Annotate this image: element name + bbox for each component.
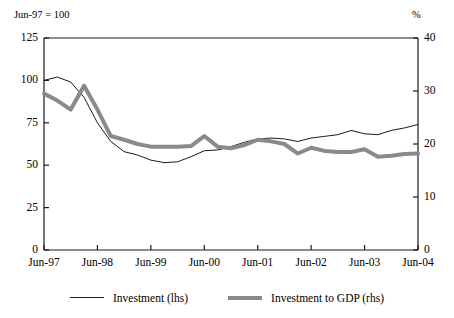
right-axis-tick-label: 0	[424, 244, 454, 256]
thin-line-swatch	[70, 295, 104, 301]
right-axis-tick-label: 20	[424, 138, 454, 150]
right-axis-unit-label: %	[412, 10, 421, 21]
left-axis-tick-label: 125	[4, 32, 38, 44]
axis-frame	[44, 38, 418, 250]
right-axis-tick-label: 40	[424, 32, 454, 44]
x-axis-ticks	[44, 245, 418, 250]
x-axis-tick-label: Jun-04	[388, 257, 448, 269]
left-axis-ticks	[44, 38, 49, 250]
legend-item: Investment (lhs)	[70, 292, 188, 304]
right-axis-tick-label: 30	[424, 85, 454, 97]
x-axis-tick-label: Jun-97	[14, 257, 74, 269]
x-axis-tick-label: Jun-03	[335, 257, 395, 269]
right-axis-tick-label: 10	[424, 191, 454, 203]
left-axis-tick-label: 50	[4, 159, 38, 171]
left-axis-tick-label: 0	[4, 244, 38, 256]
x-axis-tick-label: Jun-02	[281, 257, 341, 269]
chart-container: Jun-97 = 100 % 0255075100125 010203040 J…	[0, 0, 454, 318]
x-axis-tick-label: Jun-99	[121, 257, 181, 269]
right-axis-ticks	[413, 38, 418, 250]
x-axis-tick-label: Jun-00	[174, 257, 234, 269]
left-axis-tick-label: 75	[4, 117, 38, 129]
legend-item-label: Investment to GDP (rhs)	[271, 292, 384, 304]
thick-line-swatch	[228, 295, 262, 301]
x-axis-tick-label: Jun-01	[228, 257, 288, 269]
left-axis-unit-label: Jun-97 = 100	[14, 10, 70, 21]
legend-item-label: Investment (lhs)	[113, 292, 188, 304]
series-layer	[44, 77, 418, 163]
chart-legend: Investment (lhs)Investment to GDP (rhs)	[0, 286, 454, 310]
legend-item: Investment to GDP (rhs)	[228, 292, 384, 304]
left-axis-tick-label: 25	[4, 202, 38, 214]
plot-area	[0, 0, 454, 318]
left-axis-tick-label: 100	[4, 74, 38, 86]
x-axis-tick-label: Jun-98	[67, 257, 127, 269]
